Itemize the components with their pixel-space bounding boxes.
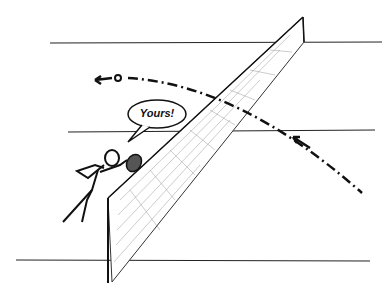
net-post-far (303, 17, 304, 42)
tennis-illustration (0, 0, 391, 295)
court-line-far (50, 42, 382, 43)
speech-bubble-text: Yours! (132, 107, 182, 119)
arrow-left-icon (95, 76, 112, 84)
tennis-net (108, 17, 304, 283)
ball-icon (115, 75, 121, 81)
court-line-near (16, 260, 370, 261)
